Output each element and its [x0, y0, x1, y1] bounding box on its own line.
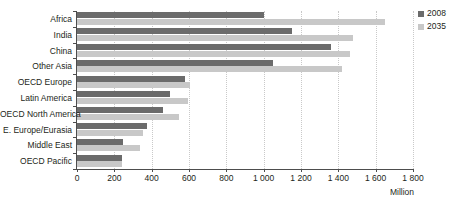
y-tick — [73, 58, 76, 59]
bar-2008 — [77, 155, 122, 161]
category-label: Middle East — [0, 140, 72, 150]
bar-2035 — [77, 114, 179, 120]
bar-group — [77, 27, 413, 43]
x-tick — [376, 169, 377, 172]
category-label: OECD Europe — [0, 77, 72, 87]
legend-swatch-icon — [418, 11, 424, 17]
bar-group — [77, 90, 413, 106]
x-tick-label: 0 — [75, 173, 80, 183]
bar-group — [77, 43, 413, 59]
bar-group — [77, 122, 413, 138]
bar-2008 — [77, 44, 331, 50]
bar-2035 — [77, 98, 188, 104]
legend-label: 2008 — [427, 8, 446, 18]
x-tick — [301, 169, 302, 172]
y-tick — [73, 74, 76, 75]
x-tick — [338, 169, 339, 172]
y-tick — [73, 43, 76, 44]
bar-group — [77, 137, 413, 153]
bar-2008 — [77, 60, 273, 66]
bar-group — [77, 106, 413, 122]
bar-2008 — [77, 91, 170, 97]
axis-unit-label: Million — [390, 187, 414, 197]
x-tick — [77, 169, 78, 172]
legend: 20082035 — [418, 9, 456, 35]
category-label: Africa — [0, 14, 72, 24]
x-tick-label: 800 — [219, 173, 233, 183]
x-tick — [114, 169, 115, 172]
y-tick — [73, 153, 76, 154]
x-tick — [413, 169, 414, 172]
bar-2035 — [77, 66, 342, 72]
category-label: Other Asia — [0, 61, 72, 71]
bar-2035 — [77, 19, 385, 25]
y-tick — [73, 169, 76, 170]
bar-2008 — [77, 12, 264, 18]
bar-2035 — [77, 82, 190, 88]
bar-group — [77, 74, 413, 90]
gridline — [413, 11, 414, 169]
bar-2035 — [77, 161, 122, 167]
bar-group — [77, 58, 413, 74]
y-tick — [73, 106, 76, 107]
x-tick — [189, 169, 190, 172]
category-label: Latin America — [0, 93, 72, 103]
bar-chart: AfricaIndiaChinaOther AsiaOECD EuropeLat… — [0, 0, 456, 202]
bar-2035 — [77, 145, 140, 151]
bar-2008 — [77, 123, 147, 129]
y-tick — [73, 122, 76, 123]
category-label: China — [0, 46, 72, 56]
x-tick-label: 1 600 — [365, 173, 386, 183]
plot-area — [77, 11, 413, 169]
category-label: OECD Pacific — [0, 156, 72, 166]
y-tick — [73, 90, 76, 91]
y-tick — [73, 137, 76, 138]
x-tick — [152, 169, 153, 172]
x-tick-label: 1 000 — [253, 173, 274, 183]
cropped-title-strip — [0, 0, 456, 7]
x-tick-label: 1 800 — [402, 173, 423, 183]
x-tick-label: 400 — [145, 173, 159, 183]
bar-group — [77, 11, 413, 27]
legend-swatch-icon — [418, 24, 424, 30]
category-label: OECD North America — [0, 109, 72, 119]
x-axis-line — [76, 169, 414, 170]
bar-2035 — [77, 35, 353, 41]
bar-2035 — [77, 51, 350, 57]
bar-rows — [77, 11, 413, 169]
x-tick-label: 1 400 — [328, 173, 349, 183]
x-tick-label: 600 — [182, 173, 196, 183]
bar-2008 — [77, 139, 123, 145]
y-tick — [73, 27, 76, 28]
x-tick-label: 200 — [107, 173, 121, 183]
bar-2008 — [77, 76, 185, 82]
y-axis-line — [76, 11, 77, 169]
category-label: India — [0, 30, 72, 40]
x-tick — [264, 169, 265, 172]
x-tick-label: 1 200 — [290, 173, 311, 183]
legend-label: 2035 — [427, 21, 446, 31]
category-labels: AfricaIndiaChinaOther AsiaOECD EuropeLat… — [0, 11, 72, 169]
bar-2008 — [77, 107, 163, 113]
legend-item[interactable]: 2035 — [418, 22, 456, 35]
bar-2035 — [77, 130, 143, 136]
y-tick — [73, 11, 76, 12]
x-tick — [226, 169, 227, 172]
category-label: E. Europe/Eurasia — [0, 125, 72, 135]
bar-2008 — [77, 28, 292, 34]
bar-group — [77, 153, 413, 169]
